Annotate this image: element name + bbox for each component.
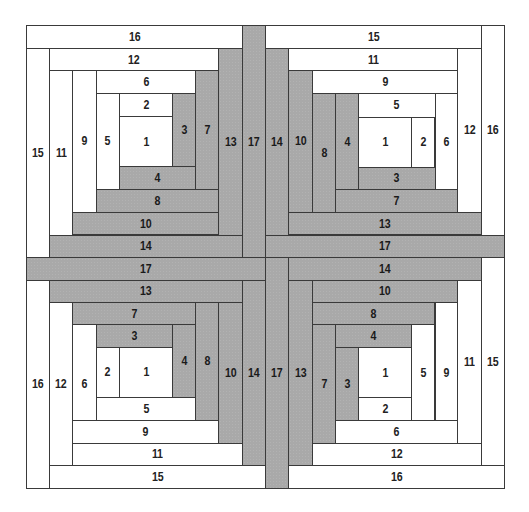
patch-bottom-left-11: 11 [72,443,243,467]
patch-top-right-8: 8 [312,93,336,213]
patch-top-left-13: 13 [218,48,242,236]
patch-top-left-14: 14 [49,235,243,259]
patch-bottom-left-1: 1 [119,347,173,399]
patch-number: 15 [32,146,43,160]
patch-number: 17 [379,239,390,253]
patch-number: 1 [382,135,388,149]
patch-number: 8 [155,194,161,208]
patch-number: 8 [371,307,377,321]
patch-number: 10 [140,217,151,231]
patch-bottom-left-9: 9 [72,420,219,444]
patch-bottom-left-7: 7 [72,302,196,325]
patch-top-right-2: 2 [411,117,436,168]
patch-number: 11 [368,53,379,67]
patch-number: 3 [394,171,400,185]
patch-bottom-right-6: 6 [335,420,458,444]
patch-number: 8 [204,354,210,368]
patch-number: 12 [55,377,66,391]
patch-number: 8 [321,146,327,160]
patch-bottom-left-13: 13 [49,280,243,304]
patch-bottom-left-5: 5 [96,397,197,421]
patch-bottom-right-13: 13 [288,280,312,467]
patch-top-right-1: 1 [358,117,412,168]
patch-number: 16 [391,470,402,484]
patch-top-left-7: 7 [195,70,219,190]
patch-number: 7 [321,377,327,391]
patch-top-left-2: 2 [119,93,173,118]
patch-number: 2 [143,98,149,112]
patch-number: 9 [81,134,87,148]
patch-top-right-17: 17 [265,235,505,259]
patch-number: 10 [379,284,390,298]
patch-bottom-left-2: 2 [96,347,121,399]
patch-bottom-right-10: 10 [312,280,458,304]
patch-number: 7 [204,123,210,137]
patch-number: 1 [143,135,149,149]
patch-number: 9 [382,75,388,89]
patch-number: 6 [443,135,449,149]
patch-bottom-left-8: 8 [195,302,219,421]
patch-top-left-1: 1 [119,116,173,167]
patch-bottom-left-3: 3 [96,324,174,348]
patch-number: 2 [382,402,388,416]
patch-bottom-left-16: 16 [26,280,50,489]
patch-top-right-4: 4 [335,93,359,190]
patch-number: 5 [420,366,426,380]
patch-number: 14 [379,262,390,276]
patch-bottom-right-1: 1 [358,347,412,398]
patch-number: 11 [152,447,163,461]
patch-number: 3 [344,377,350,391]
patch-bottom-right-14: 14 [288,257,482,281]
patch-top-left-11: 11 [49,70,73,236]
patch-number: 7 [394,194,400,208]
patch-top-left-10: 10 [72,212,219,236]
patch-number: 17 [248,135,259,149]
patch-bottom-left-17: 17 [26,257,266,281]
patch-top-left-15: 15 [26,48,50,258]
patch-number: 3 [131,329,137,343]
patch-number: 7 [131,307,137,321]
patch-number: 13 [140,284,151,298]
patch-bottom-right-8: 8 [312,302,436,325]
patch-bottom-left-4: 4 [172,324,196,398]
patch-bottom-right-16: 16 [288,465,505,489]
log-cabin-quilt-diagram: 1615121196521347813101417151611129561234… [0,0,529,512]
patch-number: 10 [295,134,306,148]
patch-top-left-16: 16 [26,25,243,49]
patch-number: 6 [81,377,87,391]
patch-top-right-9: 9 [312,70,458,94]
patch-number: 11 [464,355,475,369]
patch-number: 13 [295,366,306,380]
patch-number: 2 [105,365,111,379]
patch-bottom-left-14: 14 [242,280,266,467]
patch-top-right-10: 10 [288,70,312,213]
patch-number: 9 [143,425,149,439]
patch-number: 2 [420,135,426,149]
patch-bottom-right-17: 17 [265,257,289,489]
patch-number: 17 [140,262,151,276]
patch-bottom-right-15: 15 [481,257,505,466]
patch-top-right-15: 15 [265,25,482,49]
patch-number: 10 [225,366,236,380]
patch-number: 11 [56,146,67,160]
patch-top-left-4: 4 [119,166,196,190]
patch-number: 9 [443,366,449,380]
patch-number: 17 [271,366,282,380]
patch-top-right-5: 5 [358,93,436,118]
patch-number: 16 [129,30,140,44]
patch-bottom-left-15: 15 [49,465,266,489]
patch-number: 4 [371,329,377,343]
patch-top-right-12: 12 [457,48,482,213]
patch-number: 4 [344,135,350,149]
patch-top-left-6: 6 [96,70,197,94]
patch-top-right-14: 14 [265,48,289,236]
patch-bottom-right-5: 5 [411,324,436,421]
patch-top-right-3: 3 [358,167,436,191]
patch-bottom-right-2: 2 [358,397,412,421]
patch-number: 5 [143,402,149,416]
patch-number: 13 [225,135,236,149]
patch-number: 12 [391,447,402,461]
patch-number: 3 [181,123,187,137]
patch-number: 15 [152,470,163,484]
patch-top-right-7: 7 [335,189,458,213]
